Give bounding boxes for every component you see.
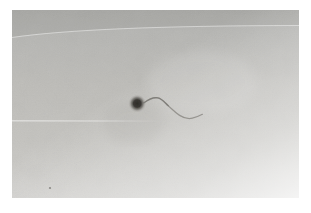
specimen-head	[128, 95, 146, 113]
photograph	[12, 10, 299, 198]
screenshot-canvas	[0, 0, 311, 213]
paper-light-patch	[147, 50, 257, 114]
paper-highlight-bottom-right	[12, 10, 299, 198]
dust-speck	[49, 187, 51, 189]
photo-scene	[12, 10, 299, 198]
